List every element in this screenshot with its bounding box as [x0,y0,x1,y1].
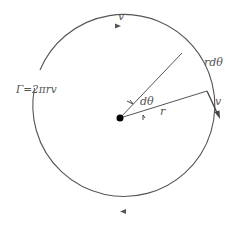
arc-length-label: rdθ [204,56,223,69]
angle-arrow-upper [127,100,133,104]
velocity-label-top: v [118,10,125,23]
top-direction-arrow [115,24,121,29]
radius-label: r [160,105,166,118]
circulation-circle [33,14,215,196]
bottom-direction-arrow [120,209,126,214]
circulation-label: Γ=2πrv [15,83,57,95]
angle-arrow-lower [143,115,145,120]
vortex-center-dot [117,115,124,122]
velocity-arrowhead [215,111,221,120]
velocity-label-right: v [215,95,222,108]
angle-label: dθ [140,95,154,108]
vortex-diagram: v rdθ v dθ r Γ=2πrv [0,0,237,226]
